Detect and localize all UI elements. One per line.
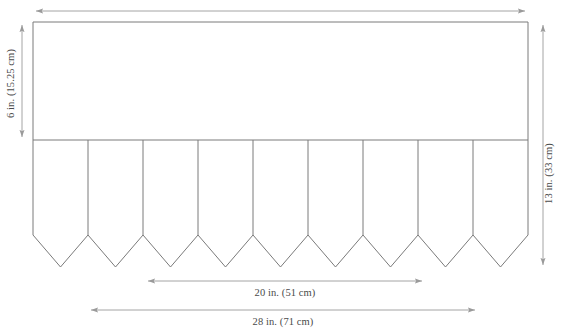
- dimension-label-total-height: 13 in. (33 cm): [543, 134, 554, 214]
- dimension-label-total-width: 28 in. (71 cm): [88, 316, 478, 327]
- valance-pattern-diagram: 6 in. (15.25 cm) 13 in. (33 cm) 20 in. (…: [0, 0, 565, 333]
- valance-body-path: [33, 22, 528, 267]
- valance-outline: [33, 22, 528, 267]
- dimension-label-inner-width: 20 in. (51 cm): [145, 287, 425, 298]
- diagram-canvas: [0, 0, 565, 333]
- dimension-label-band-height: 6 in. (15.25 cm): [5, 44, 16, 124]
